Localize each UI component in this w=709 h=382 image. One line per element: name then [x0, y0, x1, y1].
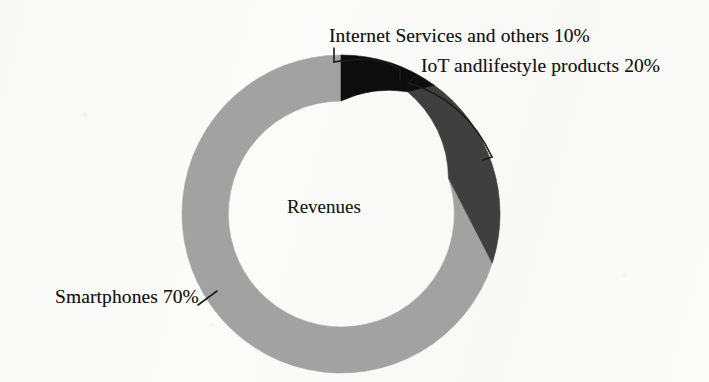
- data-label-smartphones: Smartphones 70%: [55, 287, 199, 307]
- figure-canvas: Internet Services and others 10% IoT and…: [0, 0, 709, 382]
- donut-center-label: Revenues: [287, 197, 361, 216]
- data-label-iot: IoT andlifestyle products 20%: [421, 56, 660, 76]
- data-label-internet-services: Internet Services and others 10%: [329, 26, 590, 46]
